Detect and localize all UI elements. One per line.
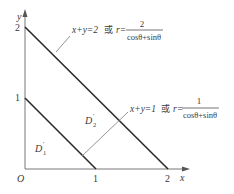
- outer-polar-lhs: r=: [116, 25, 126, 35]
- y-axis-label: y: [16, 11, 22, 22]
- region-D1-label: D 1 ′: [34, 140, 46, 156]
- x-tick-1: 1: [93, 173, 98, 184]
- region-D2-label: D 2 ′: [84, 112, 96, 128]
- y-tick-2: 2: [15, 22, 20, 33]
- x-axis-label: x: [179, 172, 185, 183]
- diagram-canvas: y 2 1 O 1 2 x x+y=2 或 r= 2 cosθ+sinθ x+y…: [0, 0, 234, 194]
- outer-denominator: cosθ+sinθ: [127, 32, 161, 42]
- region-D1-base: D: [34, 143, 43, 154]
- outer-leader-line: [56, 36, 70, 52]
- region-D1-sub: 1: [43, 149, 46, 156]
- x-axis-arrow-icon: [182, 167, 190, 172]
- region-D1-sup: ′: [43, 140, 45, 147]
- inner-polar-lhs: r=: [173, 104, 183, 114]
- inner-numerator: 1: [197, 96, 202, 106]
- outer-line-x-plus-y-eq-2: [25, 27, 168, 169]
- inner-line-x-plus-y-eq-1: [25, 98, 96, 169]
- region-D2-sub: 2: [93, 121, 96, 128]
- region-D2-sup: ′: [93, 112, 95, 119]
- inner-connector: 或: [161, 103, 170, 114]
- x-tick-2: 2: [165, 173, 170, 184]
- outer-equation: x+y=2: [71, 25, 98, 35]
- y-axis-arrow-icon: [23, 9, 28, 17]
- inner-equation: x+y=1: [129, 104, 156, 114]
- region-D2-base: D: [84, 115, 93, 126]
- outer-connector: 或: [104, 24, 113, 35]
- inner-denominator: cosθ+sinθ: [183, 110, 217, 120]
- outer-line-label: x+y=2 或 r= 2 cosθ+sinθ: [71, 19, 163, 42]
- y-tick-1: 1: [15, 92, 20, 103]
- origin-label: O: [17, 173, 24, 184]
- inner-line-label: x+y=1 或 r= 1 cosθ+sinθ: [129, 96, 219, 120]
- outer-numerator: 2: [140, 19, 145, 29]
